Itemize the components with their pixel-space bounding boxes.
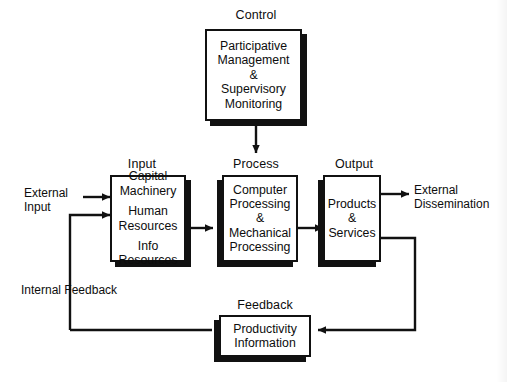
external-input-line-2: Input [24,200,68,214]
output-line-3: Services [328,226,375,240]
control-line-5: Monitoring [225,97,282,111]
control-line-4: Supervisory [221,82,286,96]
input-info-resources: Resources [119,253,178,267]
process-line-3: & [256,211,264,225]
input-panel: Capital Machinery Human Resources Info R… [110,175,186,262]
node-output[interactable]: Products & Services [323,175,381,262]
caption-feedback: Feedback [212,298,318,312]
control-line-1: Participative [220,39,287,53]
node-process[interactable]: Computer Processing & Mechanical Process… [222,175,298,262]
node-feedback[interactable]: Productivity Information [219,315,311,357]
input-machinery: Machinery [120,184,177,198]
control-line-2: Management [218,53,290,67]
process-line-4: Mechanical [229,226,291,240]
node-control[interactable]: Participative Management & Supervisory M… [205,29,302,121]
external-dissemination-line-2: Dissemination [414,197,489,211]
caption-process: Process [206,157,306,171]
label-internal-feedback: Internal Feedback [21,283,117,297]
external-input-line-1: External [24,186,68,200]
label-external-dissemination: External Dissemination [414,183,489,211]
control-panel: Participative Management & Supervisory M… [205,29,302,121]
control-line-3: & [249,68,257,82]
output-panel: Products & Services [323,175,381,262]
output-line-2: & [348,211,356,225]
input-info: Info [138,239,159,253]
process-line-2: Processing [230,197,291,211]
process-line-1: Computer [233,183,287,197]
flow-internal-feedback-into-input [70,215,110,330]
input-human: Human [128,204,168,218]
feedback-line-1: Productivity [233,322,297,336]
diagram-canvas: Control Participative Management & Super… [0,0,507,382]
feedback-panel: Productivity Information [219,315,311,357]
scan-edge-artifact [496,0,507,382]
process-line-5: Processing [230,240,291,254]
external-dissemination-line-1: External [414,183,489,197]
caption-control: Control [196,8,316,22]
feedback-line-2: Information [234,336,296,350]
input-capital: Capital [129,169,167,183]
caption-output: Output [309,157,399,171]
label-external-input: External Input [24,186,68,214]
process-panel: Computer Processing & Mechanical Process… [222,175,298,262]
input-human-resources: Resources [119,219,178,233]
node-input[interactable]: Capital Machinery Human Resources Info R… [110,175,186,262]
output-line-1: Products [328,197,377,211]
